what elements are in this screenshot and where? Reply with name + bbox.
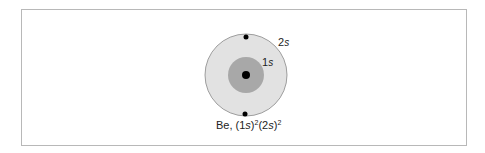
- label-2s: 2s: [278, 36, 289, 48]
- label-1s: 1s: [262, 56, 273, 68]
- electron-2s-bottom: [243, 112, 248, 117]
- electron-2s-top: [244, 35, 249, 40]
- electron-configuration-caption: Be, (1s)2(2s)2: [216, 119, 281, 131]
- atom-diagram: 2s 1s Be, (1s)2(2s)2: [0, 0, 485, 153]
- nucleus: [242, 71, 250, 79]
